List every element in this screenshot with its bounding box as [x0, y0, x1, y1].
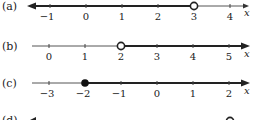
tick-label: −1: [112, 88, 127, 99]
tick-label: 4: [190, 51, 196, 62]
part-label-b: (b): [2, 40, 18, 53]
arrowhead-left-icon: [27, 3, 36, 10]
tick-label: 3: [154, 51, 160, 62]
tick-label: 2: [155, 11, 161, 22]
axis-variable-label: x: [244, 48, 250, 59]
axis-variable-label: x: [244, 85, 250, 96]
number-lines-figure: (a) −1 0 1 2 3 4 x (b) 0 1 2 3: [0, 0, 254, 120]
tick-label: −2: [76, 88, 91, 99]
axis-variable-label: x: [244, 7, 250, 18]
tick-label: −1: [40, 11, 55, 22]
part-label-a: (a): [2, 0, 17, 13]
open-endpoint-icon: [190, 2, 197, 9]
closed-endpoint-icon: [81, 79, 89, 87]
tick-label: 0: [46, 51, 52, 62]
tick-label: 0: [83, 11, 89, 22]
open-endpoint-icon: [117, 42, 124, 49]
number-line-c: (c) −3 −2 −1 0 1 2 x: [2, 77, 250, 99]
tick-label: 3: [191, 11, 197, 22]
tick-label: −3: [40, 88, 55, 99]
tick-label: 2: [226, 88, 232, 99]
tick-label: 1: [82, 51, 88, 62]
tick-label: 1: [119, 11, 125, 22]
tick-label: 1: [190, 88, 196, 99]
open-endpoint-icon: [226, 117, 233, 120]
number-line-b: (b) 0 1 2 3 4 5 x: [2, 40, 250, 62]
tick-label: 2: [118, 51, 124, 62]
part-label-d: (d): [2, 114, 18, 120]
number-line-a: (a) −1 0 1 2 3 4 x: [2, 0, 250, 22]
number-line-d: (d): [2, 114, 234, 120]
part-label-c: (c): [2, 77, 17, 90]
arrowhead-left-icon: [30, 117, 36, 120]
tick-label: 5: [226, 51, 232, 62]
tick-label: 0: [154, 88, 160, 99]
tick-label: 4: [227, 11, 233, 22]
